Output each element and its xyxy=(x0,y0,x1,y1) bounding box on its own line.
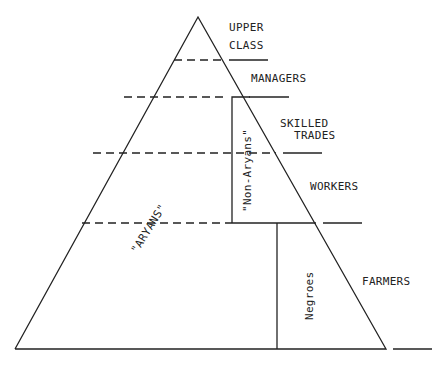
label-non-aryans: "Non-Aryans" xyxy=(241,129,254,212)
pyramid-diagram: UPPER CLASS MANAGERS SKILLED TRADES WORK… xyxy=(0,0,445,367)
label-skilled-trades: SKILLED TRADES xyxy=(280,117,336,142)
label-farmers: FARMERS xyxy=(362,275,410,288)
label-managers: MANAGERS xyxy=(251,72,306,85)
label-aryans: "ARYANS" xyxy=(129,202,169,256)
label-negroes: Negroes xyxy=(303,272,316,320)
label-upper-class: UPPER CLASS xyxy=(229,21,271,52)
label-workers: WORKERS xyxy=(310,180,358,193)
